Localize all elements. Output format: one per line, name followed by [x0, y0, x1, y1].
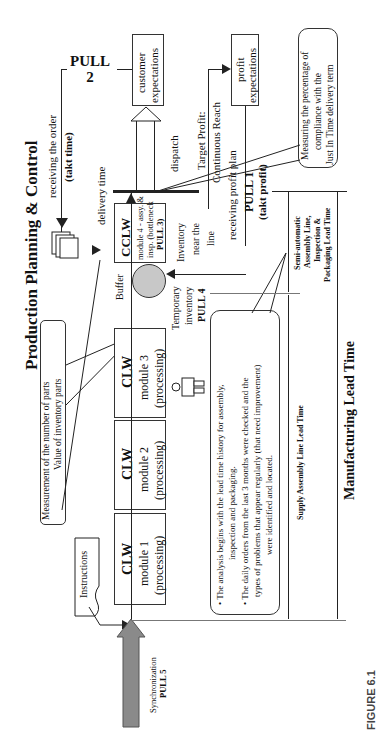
temporary-inventory-2: inventory: [183, 287, 194, 325]
semi-auto-text-1: Semi-automatic: [293, 216, 302, 270]
analysis-note-2-line: inspection and packaging.: [227, 466, 237, 560]
temporary-inventory-1: Temporary: [170, 286, 181, 330]
pull-2-number: 2: [70, 69, 110, 85]
jit-text-2: compliance with the: [313, 73, 323, 150]
profit-expectations-text-1: profit: [234, 58, 246, 82]
semi-auto-text-3: Inspection &: [313, 218, 322, 262]
module-1-line-1: module 1: [137, 541, 152, 586]
diagram-title: Production Planning & Control: [22, 141, 42, 370]
pull-2-text: PULL: [70, 53, 110, 69]
inventory-near-1: Inventory: [175, 223, 186, 262]
takt-time-label: (takt time): [62, 132, 74, 182]
module-4-line-1: module 4 - assy. &: [135, 196, 145, 260]
module-2-title: CLW: [120, 448, 136, 480]
pull-4-label: PULL 4: [196, 288, 207, 322]
order-to-pull2: [117, 69, 132, 70]
figure-label: FIGURE 6.1: [365, 670, 377, 730]
buffer-label: Buffer: [114, 274, 125, 300]
inventory-arrow-horizontal: [170, 274, 246, 275]
supply-lead-time-label: Supply Assembly Line Lead Time: [296, 405, 305, 520]
lead-time-mid-boundary: [210, 293, 300, 294]
analysis-bullet-1: • The analysis begins with the lead time…: [215, 384, 225, 605]
module-3-line-1: module 3: [137, 355, 152, 400]
profit-expectations-text-2: expectations: [246, 48, 258, 103]
lead-time-bottom-boundary: [131, 620, 346, 621]
receiving-order-label: receiving the order: [46, 115, 58, 198]
semi-auto-dimension: [288, 192, 289, 292]
flow-arrowhead-icon: [126, 193, 136, 203]
buffer-circle: [132, 264, 166, 298]
manufacturing-dimension: [337, 192, 338, 619]
supply-dimension: [288, 295, 289, 619]
order-bracket-top: [61, 69, 67, 70]
semi-auto-text-4: Packaging Lead Time: [323, 208, 332, 282]
inventory-near-3: line: [205, 231, 216, 246]
pull-5-label: PULL 5: [158, 669, 168, 698]
order-arrowhead-icon: [56, 218, 68, 228]
analysis-note-3: The daily orders from the last 3 months …: [240, 378, 250, 600]
module-2-line-2: (processing): [152, 441, 167, 500]
module-4-line-3: PULL 3): [155, 219, 165, 250]
customer-expectations-text-2: expectations: [148, 48, 160, 103]
semi-auto-text-2: Assembly Line,: [303, 216, 312, 268]
inventory-arrowhead-icon: [166, 269, 175, 279]
profit-arrowhead-icon: [222, 64, 231, 74]
module-4-line-2: insp. (bottleneck: [145, 201, 155, 258]
analysis-note-5-line: were identified and located.: [264, 455, 274, 555]
analysis-note-1: The analysis begins with the lead time h…: [215, 384, 225, 599]
jit-text-3: Just In Time delivery term: [325, 65, 335, 165]
customer-expectations-text-1: customer: [135, 53, 147, 93]
synchronization-arrow-icon: [115, 617, 147, 729]
instructions-label: Instructions: [78, 551, 89, 598]
analysis-bullet-2: • The daily orders from the last 3 month…: [240, 378, 250, 605]
module-3-line-2: (processing): [152, 349, 167, 408]
module-2-line-1: module 2: [137, 447, 152, 492]
measurement-text-1: Measurement of the number of parts: [41, 382, 51, 521]
inventory-near-2: near the: [190, 223, 201, 255]
delivery-time-label: delivery time: [95, 167, 107, 225]
pull-2-label: PULL 2: [70, 53, 110, 85]
main-flow-line: [131, 190, 132, 620]
manufacturing-lead-time-label: Manufacturing Lead Time: [342, 341, 358, 500]
jit-callout-pointer: [150, 100, 310, 200]
analysis-pointer: [250, 245, 290, 320]
analysis-note-4-line: types of problems that appear regularly …: [252, 365, 262, 597]
module-1-title: CLW: [120, 543, 136, 575]
module-3-title: CLW: [120, 356, 136, 388]
synchronization-label: Synchronization: [148, 657, 158, 713]
module-1-line-2: (processing): [152, 536, 167, 595]
lead-time-top-boundary: [272, 191, 347, 192]
operator-icon: [170, 372, 208, 402]
